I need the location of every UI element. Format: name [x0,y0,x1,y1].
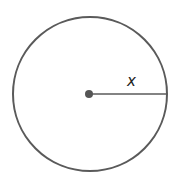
circle-diagram: x [0,0,183,179]
center-point [85,90,93,98]
radius-label: x [126,72,136,90]
